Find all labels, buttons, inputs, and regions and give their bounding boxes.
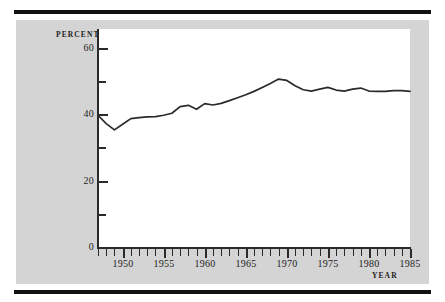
bottom-rule [14,290,431,294]
x-tick-1968 [270,249,271,256]
x-tick-label-1970: 1970 [267,258,307,269]
x-tick-1956 [172,249,173,256]
x-tick-1972 [303,249,304,256]
x-tick-1971 [295,249,296,256]
x-tick-1962 [221,249,222,256]
x-tick-1949 [114,249,115,256]
data-series-line [98,79,410,130]
x-tick-1954 [155,249,156,256]
x-tick-label-1980: 1980 [349,258,389,269]
x-tick-1950 [123,249,125,258]
x-tick-1947 [98,249,99,256]
x-tick-label-1985: 1985 [390,258,430,269]
x-tick-1961 [213,249,214,256]
x-tick-1966 [254,249,255,256]
x-tick-label-1950: 1950 [103,258,143,269]
x-tick-label-1965: 1965 [226,258,266,269]
x-tick-1979 [361,249,362,256]
y-tick-label-40: 40 [60,108,94,119]
y-axis-title: PERCENT [56,30,100,39]
x-tick-1983 [394,249,395,256]
figure-page: 0204060 19501955196019651970197519801985… [0,0,445,302]
x-tick-1975 [328,249,330,258]
x-tick-1977 [344,249,345,256]
top-rule [14,10,431,14]
x-tick-1980 [369,249,371,258]
x-tick-label-1975: 1975 [308,258,348,269]
x-tick-1953 [147,249,148,256]
x-tick-1985 [410,249,412,258]
x-tick-1960 [205,249,207,258]
x-tick-label-1955: 1955 [144,258,184,269]
x-tick-1984 [402,249,403,256]
x-tick-1955 [164,249,166,258]
x-tick-1967 [262,249,263,256]
x-tick-1969 [279,249,280,256]
x-tick-1978 [353,249,354,256]
x-axis-title: YEAR [372,271,398,280]
x-tick-1965 [246,249,248,258]
y-tick-label-60: 60 [60,42,94,53]
x-tick-1982 [385,249,386,256]
x-tick-1958 [188,249,189,256]
x-tick-1951 [131,249,132,256]
x-tick-label-1960: 1960 [185,258,225,269]
y-tick-label-20: 20 [60,175,94,186]
series-layer [98,29,410,248]
x-tick-1959 [197,249,198,256]
y-tick-label-0: 0 [60,241,94,252]
x-tick-1957 [180,249,181,256]
x-tick-1981 [377,249,378,256]
x-tick-1973 [311,249,312,256]
x-tick-1976 [336,249,337,256]
x-tick-1963 [229,249,230,256]
x-tick-1974 [320,249,321,256]
x-tick-1964 [238,249,239,256]
x-tick-1952 [139,249,140,256]
x-tick-1970 [287,249,289,258]
x-tick-1948 [106,249,107,256]
